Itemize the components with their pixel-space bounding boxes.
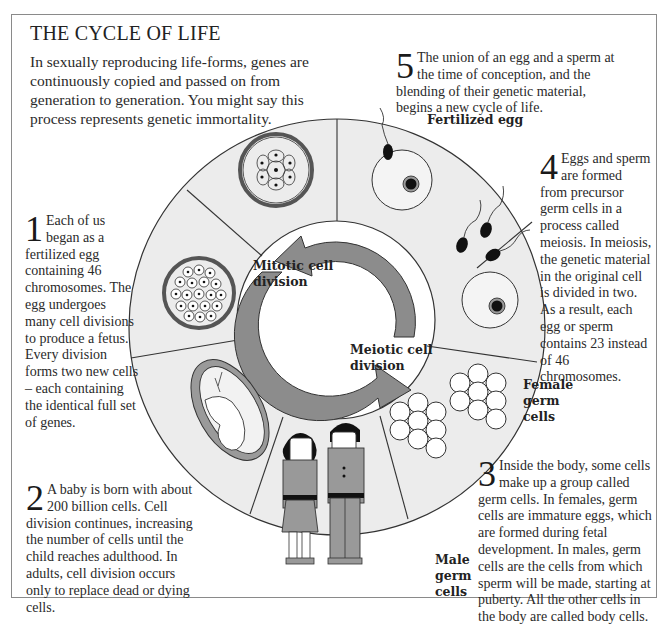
step-5-text: 5The union of an egg and a sperm at the …: [396, 50, 626, 117]
mitotic-division-label: Mitotic cell division: [253, 258, 343, 290]
step-1-text: 1Each of us began as a fertilized egg co…: [25, 213, 140, 431]
step-4-number: 4: [540, 152, 558, 182]
step-2-text: 2A baby is born with about 200 billion c…: [26, 482, 201, 616]
step-3-number: 3: [478, 459, 496, 489]
step-5-number: 5: [396, 51, 414, 81]
step-1-number: 1: [25, 214, 43, 244]
embryo-cells-icon: [164, 258, 234, 328]
step-2-number: 2: [26, 483, 44, 513]
step-4-text: 4Eggs and sperm are formed from precurso…: [540, 151, 652, 386]
female-germ-cells-label: Female germ cells: [523, 377, 583, 425]
step-3-text: 3Inside the body, some cells make up a g…: [478, 458, 658, 626]
meiotic-division-label: Meiotic cell division: [350, 342, 440, 374]
male-germ-cells-label: Male germ cells: [435, 552, 475, 600]
fertilized-egg-label: Fertilized egg: [427, 112, 523, 128]
morula-icon: [240, 134, 312, 206]
